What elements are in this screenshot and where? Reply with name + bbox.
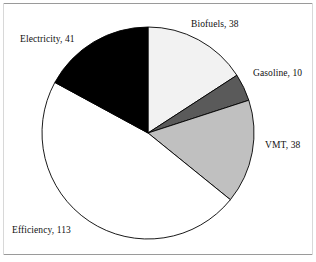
- pie-label-electricity: Electricity, 41: [20, 35, 75, 45]
- pie-slice-group: [42, 27, 254, 239]
- pie-label-efficiency: Efficiency, 113: [12, 226, 71, 236]
- pie-chart-figure: Biofuels, 38 Gasoline, 10 VMT, 38 Effici…: [0, 0, 316, 262]
- pie-label-vmt: VMT, 38: [265, 141, 300, 151]
- pie-label-biofuels: Biofuels, 38: [191, 20, 239, 30]
- pie-label-gasoline: Gasoline, 10: [253, 69, 302, 79]
